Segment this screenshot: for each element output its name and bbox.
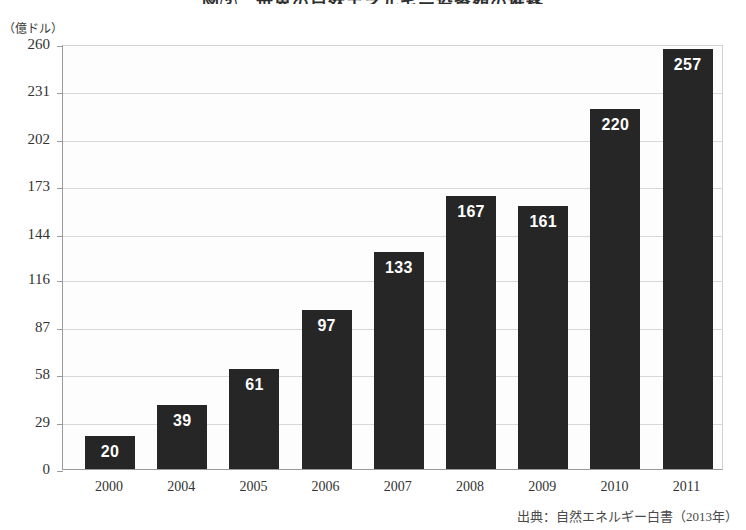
- y-axis-tick: [57, 46, 63, 47]
- x-axis-tick-label: 2011: [647, 479, 727, 495]
- y-axis-tick: [57, 471, 63, 472]
- y-axis-tick: [57, 424, 63, 425]
- y-axis-tick-label: 231: [0, 83, 50, 100]
- x-axis-tick-label: 2010: [574, 479, 654, 495]
- bar-value-label: 20: [85, 443, 135, 461]
- x-axis-tick-label: 2005: [213, 479, 293, 495]
- plot-area: 20396197133167161220257: [62, 45, 723, 470]
- y-axis-tick-label: 116: [0, 271, 50, 288]
- y-axis-tick: [57, 376, 63, 377]
- y-axis-tick-label: 87: [0, 319, 50, 336]
- bar[interactable]: 97: [302, 310, 352, 469]
- bar[interactable]: 161: [518, 206, 568, 469]
- bar[interactable]: 61: [229, 369, 279, 469]
- x-axis-tick-label: 2008: [430, 479, 510, 495]
- bar-value-label: 61: [229, 376, 279, 394]
- x-axis-tick-label: 2007: [358, 479, 438, 495]
- y-axis-tick: [57, 329, 63, 330]
- y-axis-tick: [57, 236, 63, 237]
- y-axis-tick-label: 29: [0, 414, 50, 431]
- bar-value-label: 257: [663, 56, 713, 74]
- x-axis-tick-label: 2000: [69, 479, 149, 495]
- bar-value-label: 133: [374, 259, 424, 277]
- bar-value-label: 167: [446, 203, 496, 221]
- x-axis-tick-label: 2006: [286, 479, 366, 495]
- y-axis-tick: [57, 281, 63, 282]
- bar[interactable]: 20: [85, 436, 135, 469]
- y-axis-tick-label: 173: [0, 178, 50, 195]
- source-note: 出典：自然エネルギー白書（2013年）: [517, 506, 738, 525]
- y-axis-tick: [57, 141, 63, 142]
- bar[interactable]: 39: [157, 405, 207, 469]
- bar[interactable]: 133: [374, 252, 424, 469]
- chart-title: 図③ 世界の自然エネルギー投資額の推移: [0, 0, 746, 4]
- y-axis-tick-label: 0: [0, 461, 50, 478]
- bar-value-label: 220: [590, 116, 640, 134]
- bar-value-label: 97: [302, 317, 352, 335]
- y-axis-tick-label: 260: [0, 36, 50, 53]
- bar-value-label: 161: [518, 213, 568, 231]
- bar[interactable]: 220: [590, 109, 640, 469]
- y-axis-tick: [57, 93, 63, 94]
- bar[interactable]: 257: [663, 49, 713, 469]
- gridline: [63, 93, 722, 94]
- y-axis-tick-label: 202: [0, 131, 50, 148]
- y-axis-tick-label: 58: [0, 366, 50, 383]
- y-axis-unit-label: （億ドル）: [3, 19, 63, 37]
- y-axis-tick-label: 144: [0, 226, 50, 243]
- x-axis-tick-label: 2004: [141, 479, 221, 495]
- bar-value-label: 39: [157, 412, 207, 430]
- bar[interactable]: 167: [446, 196, 496, 469]
- x-axis-tick-label: 2009: [502, 479, 582, 495]
- y-axis-tick: [57, 188, 63, 189]
